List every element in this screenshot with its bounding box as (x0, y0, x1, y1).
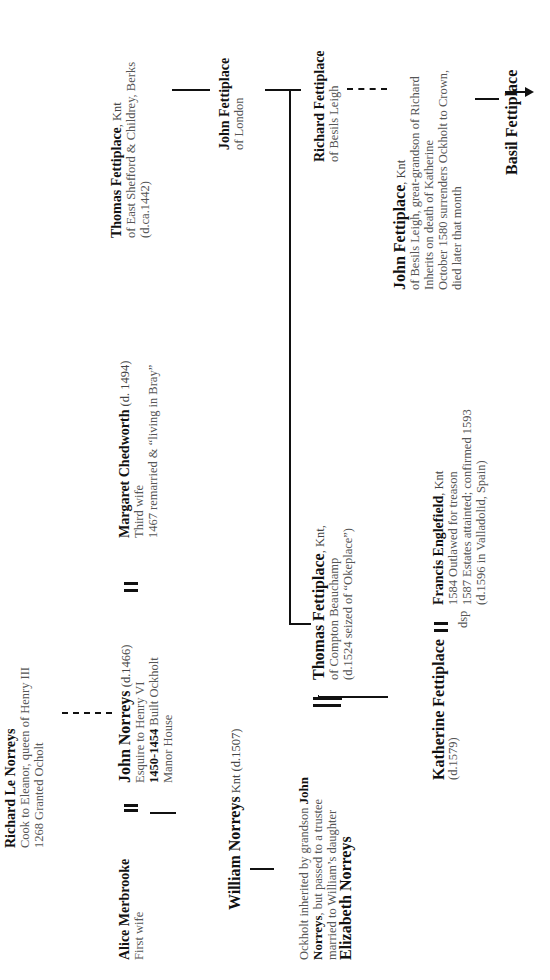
node-katherine-fettiplace: Katherine Fettiplace (d.1579) (432, 639, 460, 780)
person-name: William Norreys (226, 796, 243, 910)
node-william-norreys: William Norreys Knt (d.1507) (228, 729, 243, 910)
descent-line (250, 868, 274, 870)
person-detail: Third wife (132, 361, 146, 538)
person-name: Richard Fettiplace (313, 50, 327, 162)
descent-line-drop (289, 623, 311, 625)
person-detail: of Besils Leigh, great-grandson of Richa… (408, 70, 422, 290)
person-detail: Built Ockholt (147, 657, 161, 729)
marriage-icon (124, 804, 138, 812)
descent-line (475, 98, 499, 100)
person-detail: 1467 remarried & “living in Bray” (146, 361, 160, 538)
person-detail: of London (232, 58, 246, 150)
person-name: Francis Englefield (431, 496, 446, 605)
descent-to-katherine (318, 696, 388, 698)
person-detail: died later that month (450, 70, 464, 290)
node-richard-le-norreys: Richard Le Norreys Cook to Eleanor, quee… (4, 667, 46, 848)
note-name: John (296, 777, 311, 804)
note-text: , but passed to a trustee (311, 799, 325, 916)
person-name: John Fettiplace (218, 58, 232, 150)
person-dates: Knt (d.1507) (229, 729, 243, 797)
person-detail: of Compton Beauchamp (327, 525, 341, 680)
person-name: Margaret Chedworth (117, 410, 132, 538)
descent-line (150, 812, 176, 814)
person-detail: 1584 Outlawed for treason (446, 409, 460, 605)
marriage-icon (124, 582, 138, 592)
descent-line (318, 698, 342, 700)
person-detail: (d.1579) (446, 639, 460, 780)
person-name-elizabeth-norreys: Elizabeth Norreys (339, 777, 353, 960)
dashed-descent-line (347, 88, 387, 90)
descent-line (316, 697, 317, 698)
person-name: John Norreys (116, 690, 133, 783)
person-name: John Fettiplace (391, 185, 408, 290)
arrow-continuation-icon (505, 84, 535, 100)
node-thomas-fettiplace-compton: Thomas Fettiplace, Knt, of Compton Beauc… (312, 525, 355, 680)
node-john-fettiplace-besils: John Fettiplace, Knt of Besils Leigh, gr… (393, 70, 464, 290)
node-alice-merbrooke: Alice Merbrooke First wife (118, 859, 146, 960)
person-detail: First wife (132, 859, 146, 960)
note-name: Norreys (310, 915, 325, 960)
person-detail: Manor House (161, 645, 175, 783)
person-name: Richard Le Norreys (4, 667, 18, 848)
person-detail: of East Shefford & Childrey, Berks (124, 62, 138, 238)
person-detail: (d.1596 in Valladolid, Spain) (474, 409, 488, 605)
person-detail: 1268 Granted Ocholt (32, 667, 46, 848)
node-richard-fettiplace: Richard Fettiplace of Besils Leigh (313, 50, 341, 162)
node-ockholt-note: Ockholt inherited by grandson John Norre… (297, 777, 353, 960)
dsp-label: dsp (456, 611, 471, 628)
person-title: , Knt (432, 471, 446, 496)
family-tree-diagram: Richard Le Norreys Cook to Eleanor, quee… (0, 0, 550, 980)
node-john-fettiplace-london: John Fettiplace of London (218, 58, 246, 150)
person-name: Alice Merbrooke (118, 859, 132, 960)
person-detail: 1587 Estates attainted; confirmed 1593 (460, 409, 474, 605)
descent-line-stem (265, 89, 301, 91)
descent-line (172, 89, 210, 91)
person-title: , Knt, (313, 525, 327, 553)
person-name: Thomas Fettiplace (109, 127, 124, 238)
descent-line-horizontal (289, 89, 291, 625)
person-detail: October 1580 surrenders Ockholt to Crown… (436, 70, 450, 290)
person-detail: (d.ca.1442) (138, 62, 152, 238)
person-detail: Esquire to Henry VI (133, 645, 147, 783)
marriage-icon (434, 622, 448, 632)
person-title: , Knt (110, 102, 124, 127)
person-detail: Cook to Eleanor, queen of Henry III (18, 667, 32, 848)
person-title: , Knt (394, 160, 408, 185)
person-dates: (d.1466) (119, 645, 133, 691)
person-detail: of Besils Leigh (327, 50, 341, 162)
person-detail-year: 1450-1454 (147, 729, 161, 783)
person-dates: (d. 1494) (118, 361, 132, 410)
person-detail: Inherits on death of Katherine (422, 70, 436, 290)
person-name: Thomas Fettiplace (310, 553, 327, 680)
node-john-norreys: John Norreys (d.1466) Esquire to Henry V… (118, 645, 175, 783)
node-thomas-fettiplace-east-shefford: Thomas Fettiplace, Knt of East Shefford … (110, 62, 152, 238)
dashed-descent-line (62, 712, 112, 714)
node-margaret-chedworth: Margaret Chedworth (d. 1494) Third wife … (118, 361, 160, 538)
note-text: Ockholt inherited by grandson (297, 804, 311, 960)
person-detail: (d.1524 seized of “Okeplace”) (341, 525, 355, 680)
node-francis-englefield: Francis Englefield, Knt 1584 Outlawed fo… (432, 409, 488, 605)
person-name: Katherine Fettiplace (432, 639, 446, 780)
